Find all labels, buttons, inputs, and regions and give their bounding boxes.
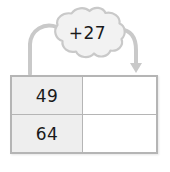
rule-label: +27 xyxy=(47,5,127,61)
input-cell-row-1: 49 xyxy=(12,77,83,115)
table-row: 49 xyxy=(12,77,157,115)
output-arrowhead-icon xyxy=(130,63,142,73)
output-cell-row-1[interactable] xyxy=(83,77,157,115)
function-table: 49 64 xyxy=(10,75,158,154)
table-row: 64 xyxy=(12,115,157,153)
output-cell-row-2[interactable] xyxy=(83,115,157,153)
rule-cloud: +27 xyxy=(47,5,127,61)
input-cell-row-2: 64 xyxy=(12,115,83,153)
worksheet-canvas: +27 49 64 xyxy=(0,0,170,172)
